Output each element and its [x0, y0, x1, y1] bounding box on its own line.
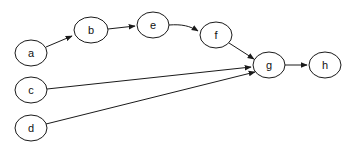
graph-canvas: abefghcd — [0, 0, 353, 146]
node-b: b — [74, 17, 108, 43]
node-e: e — [137, 12, 169, 38]
node-label: a — [28, 47, 35, 59]
node-label: d — [28, 122, 34, 134]
node-label: g — [266, 59, 272, 71]
node-f: f — [200, 22, 232, 48]
edge-arrow-path — [229, 43, 254, 59]
edge-e-to-f — [169, 25, 198, 31]
node-label: h — [322, 59, 328, 71]
node-label: c — [28, 84, 34, 96]
edge-d-to-g — [46, 72, 255, 124]
node-c: c — [15, 77, 47, 103]
edge-arrow-path — [46, 72, 255, 124]
edge-arrow-path — [108, 26, 135, 29]
edge-arrow-path — [47, 67, 251, 89]
nodes-layer: abefghcd — [15, 12, 341, 141]
edge-c-to-g — [47, 67, 251, 89]
node-a: a — [15, 40, 47, 66]
edge-arrow-path — [46, 36, 72, 47]
node-h: h — [309, 52, 341, 78]
edge-b-to-e — [108, 26, 135, 29]
node-d: d — [15, 115, 47, 141]
node-label: e — [150, 19, 156, 31]
node-label: b — [88, 24, 94, 36]
edge-a-to-b — [46, 36, 72, 47]
node-g: g — [253, 52, 285, 78]
edge-f-to-g — [229, 43, 254, 59]
edge-arrow-path — [169, 25, 198, 31]
